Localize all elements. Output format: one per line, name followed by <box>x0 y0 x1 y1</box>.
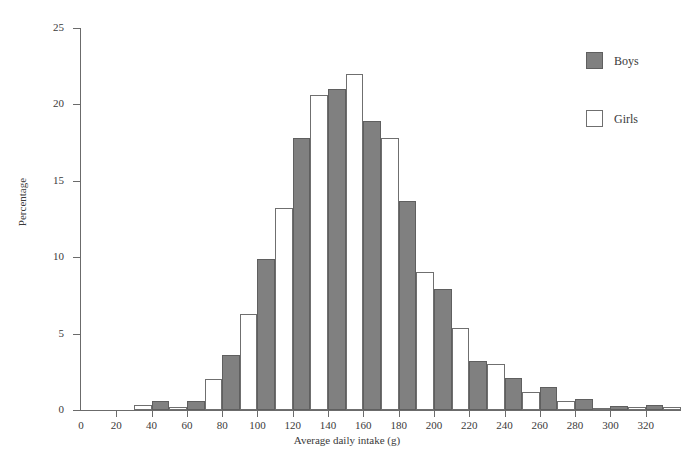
legend-label-girls: Girls <box>614 112 638 126</box>
bar-girls-20-40 <box>134 405 152 410</box>
bar-boys-280-300 <box>575 399 593 410</box>
bar-boys-300-320 <box>610 406 628 410</box>
bar-girls-200-220 <box>452 328 470 411</box>
legend-swatch-boys-icon <box>586 52 603 69</box>
bar-girls-60-80 <box>205 379 223 410</box>
bar-girls-40-60 <box>169 407 187 410</box>
x-tick-mark <box>469 411 470 417</box>
x-tick-mark <box>575 411 576 417</box>
y-tick-label: 25 <box>18 22 64 33</box>
scan-artifact <box>0 0 694 8</box>
bar-boys-60-80 <box>187 401 205 410</box>
x-tick-label: 120 <box>273 419 313 431</box>
legend-item-girls: Girls <box>586 110 686 128</box>
x-axis-title: Average daily intake (g) <box>0 434 694 446</box>
y-tick-mark <box>73 181 80 182</box>
bar-girls-220-240 <box>487 364 505 410</box>
x-tick-label: 20 <box>96 419 136 431</box>
x-tick-label: 80 <box>202 419 242 431</box>
x-tick-label: 180 <box>379 419 419 431</box>
bar-boys-260-280 <box>540 387 558 410</box>
bar-boys-80-100 <box>222 355 240 410</box>
y-tick-mark <box>73 104 80 105</box>
x-origin-label: 0 <box>61 419 101 431</box>
x-tick-mark <box>540 411 541 417</box>
bar-boys-200-220 <box>434 289 452 410</box>
bar-girls-260-280 <box>557 401 575 410</box>
x-tick-mark <box>222 411 223 417</box>
x-tick-label: 220 <box>449 419 489 431</box>
x-tick-mark <box>257 411 258 417</box>
legend-swatch-girls-icon <box>586 110 603 127</box>
x-tick-label: 60 <box>167 419 207 431</box>
x-tick-mark <box>187 411 188 417</box>
y-tick-label: 0 <box>18 404 64 415</box>
bar-boys-320-340 <box>646 405 664 410</box>
bar-boys-180-200 <box>399 201 417 410</box>
bar-boys-40-60 <box>152 401 170 410</box>
bar-girls-160-180 <box>381 138 399 410</box>
bar-girls-180-200 <box>416 272 434 410</box>
chart-legend: Boys Girls <box>586 52 686 168</box>
legend-item-boys: Boys <box>586 52 686 70</box>
x-tick-mark <box>505 411 506 417</box>
y-tick-mark <box>73 410 80 411</box>
y-tick-label: 20 <box>18 98 64 109</box>
bar-boys-240-260 <box>505 378 523 410</box>
y-axis-title: Percentage <box>16 142 28 262</box>
x-tick-mark <box>328 411 329 417</box>
bar-girls-280-300 <box>593 408 611 410</box>
bar-girls-100-120 <box>275 208 293 410</box>
bar-girls-140-160 <box>346 74 364 410</box>
y-tick-mark <box>73 334 80 335</box>
bar-girls-120-140 <box>310 95 328 410</box>
x-tick-label: 200 <box>414 419 454 431</box>
y-tick-label: 5 <box>18 328 64 339</box>
x-tick-label: 160 <box>343 419 383 431</box>
x-tick-label: 320 <box>626 419 666 431</box>
bar-girls-240-260 <box>522 392 540 410</box>
x-tick-label: 140 <box>308 419 348 431</box>
x-tick-mark <box>363 411 364 417</box>
bar-girls-300-320 <box>628 407 646 410</box>
bar-boys-160-180 <box>363 121 381 410</box>
x-tick-label: 300 <box>590 419 630 431</box>
bar-boys-220-240 <box>469 361 487 410</box>
x-tick-label: 260 <box>520 419 560 431</box>
bar-boys-120-140 <box>293 138 311 410</box>
y-tick-mark <box>73 257 80 258</box>
bar-boys-140-160 <box>328 89 346 410</box>
x-tick-mark <box>152 411 153 417</box>
x-tick-mark <box>610 411 611 417</box>
y-tick-mark <box>73 28 80 29</box>
x-axis-line <box>80 410 681 411</box>
bar-girls-320-340 <box>663 407 681 410</box>
x-tick-mark <box>116 411 117 417</box>
x-tick-label: 40 <box>132 419 172 431</box>
x-tick-label: 100 <box>237 419 277 431</box>
bar-girls-80-100 <box>240 314 258 410</box>
legend-label-boys: Boys <box>614 54 639 68</box>
x-tick-label: 240 <box>485 419 525 431</box>
histogram-chart: 0510152025 02040608010012014016018020022… <box>0 0 694 462</box>
x-tick-mark <box>434 411 435 417</box>
x-tick-mark <box>399 411 400 417</box>
x-tick-mark <box>646 411 647 417</box>
x-tick-mark <box>293 411 294 417</box>
x-tick-label: 280 <box>555 419 595 431</box>
bar-boys-100-120 <box>257 259 275 410</box>
